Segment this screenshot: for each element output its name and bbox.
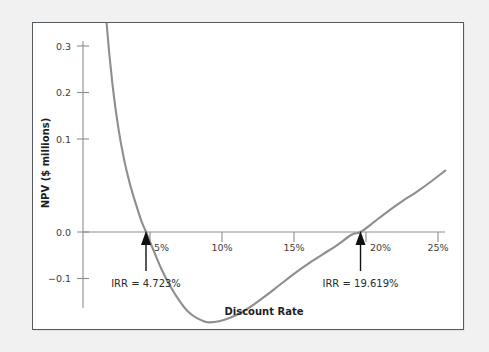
figure-root: 0.3 0.2 0.1 0.0 −0.1 5% 10% 15% 20% 25% [0,0,489,352]
x-tick-label-3: 20% [370,242,391,253]
irr-high-marker [356,231,366,271]
y-tick-label-3: 0.0 [56,227,71,238]
irr-low-label: IRR = 4.723% [111,278,181,289]
chart-panel: 0.3 0.2 0.1 0.0 −0.1 5% 10% 15% 20% 25% [32,22,464,330]
x-tick-label-2: 15% [283,242,304,253]
npv-chart: 0.3 0.2 0.1 0.0 −0.1 5% 10% 15% 20% 25% [33,23,465,331]
x-tick-label-1: 10% [211,242,232,253]
y-tick-label-1: 0.2 [56,87,71,98]
irr-high-label: IRR = 19.619% [322,278,398,289]
x-tick-label-4: 25% [427,242,448,253]
y-axis-title: NPV ($ millions) [40,118,51,209]
y-tick-label-2: 0.1 [56,134,71,145]
y-tick-label-4: −0.1 [48,273,71,284]
x-tick-label-0: 5% [154,242,169,253]
x-axis-title: Discount Rate [225,306,304,317]
y-tick-label-0: 0.3 [56,41,71,52]
